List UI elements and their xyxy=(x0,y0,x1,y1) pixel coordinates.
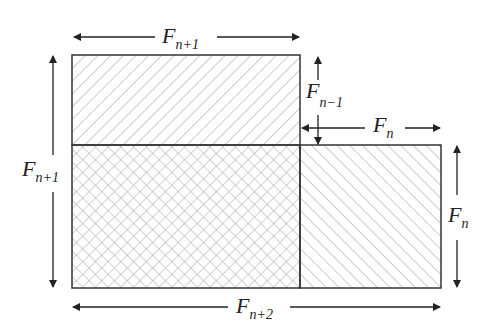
middle-vertical-arrow: Fn−1 xyxy=(305,57,343,144)
svg-text:Fn+2: Fn+2 xyxy=(235,293,273,322)
svg-text:Fn: Fn xyxy=(447,202,468,231)
fibonacci-diagram: Fn+1 Fn+1 Fn−1 Fn Fn Fn+2 xyxy=(0,0,496,330)
left-dimension-arrow: Fn+1 xyxy=(21,56,59,287)
svg-text:Fn+1: Fn+1 xyxy=(161,23,199,52)
svg-text:Fn+1: Fn+1 xyxy=(21,156,59,185)
top-dimension-arrow: Fn+1 xyxy=(74,23,299,52)
top-rectangle xyxy=(72,55,300,145)
middle-horizontal-arrow: Fn xyxy=(302,112,440,141)
bottom-dimension-arrow: Fn+2 xyxy=(73,293,440,322)
square-region xyxy=(72,145,300,288)
right-dimension-arrow: Fn xyxy=(447,146,468,287)
right-rectangle xyxy=(300,145,441,288)
svg-text:Fn−1: Fn−1 xyxy=(305,78,343,110)
svg-text:Fn: Fn xyxy=(372,112,393,141)
